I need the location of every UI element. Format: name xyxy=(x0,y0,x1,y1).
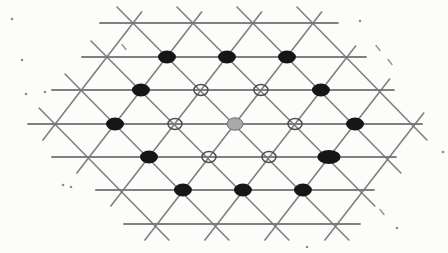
shaded-site-marker xyxy=(227,118,243,130)
filled-site-marker xyxy=(106,118,124,131)
filled-site-marker xyxy=(312,84,330,97)
scan-speck xyxy=(359,20,362,23)
scan-speck xyxy=(396,227,399,230)
filled-site-marker xyxy=(174,184,192,197)
filled-site-marker-large xyxy=(317,150,340,164)
filled-site-marker xyxy=(346,118,364,131)
filled-site-marker xyxy=(278,51,296,64)
scan-speck xyxy=(25,93,28,96)
filled-site-marker xyxy=(140,151,158,164)
scan-speck xyxy=(306,246,309,249)
filled-site-marker xyxy=(294,184,312,197)
filled-site-marker xyxy=(158,51,176,64)
scanned-page xyxy=(0,0,448,253)
scan-speck xyxy=(44,91,47,94)
scan-speck xyxy=(442,151,445,154)
scan-speck xyxy=(21,59,24,62)
filled-site-marker xyxy=(234,184,252,197)
filled-site-marker xyxy=(132,84,150,97)
scan-speck xyxy=(11,18,14,21)
lattice-figure xyxy=(0,0,448,253)
scan-speck xyxy=(70,186,73,189)
filled-site-marker xyxy=(218,51,236,64)
scan-speck xyxy=(62,184,65,187)
